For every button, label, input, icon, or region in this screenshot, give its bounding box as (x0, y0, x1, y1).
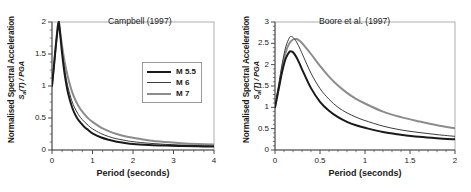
x-axis-label-right: Period (seconds) (275, 168, 455, 178)
chart-panel-campbell: Normalised Spectral Acceleration Sa(T) /… (0, 0, 235, 192)
series-line-m55 (275, 51, 455, 139)
y-tick-label: 3 (237, 17, 269, 26)
x-tick-label: 0 (38, 156, 66, 165)
legend-item-label: M 5.5 (176, 67, 196, 76)
y-tick-label: 2 (237, 60, 269, 69)
spectral-acceleration-figure: Normalised Spectral Acceleration Sa(T) /… (0, 0, 471, 192)
x-tick-label: 1.5 (396, 156, 424, 165)
x-tick-label: 2 (119, 156, 147, 165)
legend-swatch-line-icon (147, 71, 171, 73)
legend-item: M 5.5 (147, 66, 196, 77)
y-tick-label: 0 (237, 145, 269, 154)
legend-item-label: M 6 (176, 78, 189, 87)
series-line-m6 (275, 36, 455, 136)
x-tick-label: 1 (79, 156, 107, 165)
x-tick-label: 3 (160, 156, 188, 165)
x-tick-label: 2 (441, 156, 469, 165)
x-tick-label: 4 (200, 156, 228, 165)
chart-title-left: Campbell (1997) (108, 16, 172, 26)
x-tick-label: 0.5 (306, 156, 334, 165)
x-axis-label-left: Period (seconds) (52, 168, 214, 178)
y-tick-label: 0.5 (14, 113, 46, 122)
y-tick-label: 1.5 (14, 49, 46, 58)
y-tick-label: 2.5 (237, 38, 269, 47)
x-tick-label: 1 (351, 156, 379, 165)
y-tick-label: 1 (14, 81, 46, 90)
y-tick-label: 0.5 (237, 124, 269, 133)
legend-left: M 5.5M 6M 7 (142, 62, 202, 103)
y-tick-label: 0 (14, 145, 46, 154)
chart-panel-boore: Normalised Spectral Acceleration Sa(T) /… (235, 0, 471, 192)
legend-swatch-line-icon (147, 82, 171, 83)
legend-item-label: M 7 (176, 89, 189, 98)
legend-item: M 6 (147, 77, 196, 88)
y-tick-label: 2 (14, 17, 46, 26)
y-tick-label: 1.5 (237, 81, 269, 90)
legend-item: M 7 (147, 88, 196, 99)
chart-title-right: Boore et al. (1997) (319, 16, 390, 26)
x-tick-label: 0 (261, 156, 289, 165)
legend-swatch-line-icon (147, 93, 171, 95)
y-tick-label: 1 (237, 102, 269, 111)
